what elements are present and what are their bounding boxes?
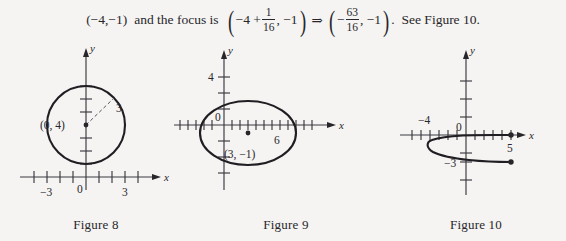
figure-9-plot: y x 4 0 6 (3, −1) xyxy=(186,40,386,210)
result-fraction: 63 16 xyxy=(346,6,360,33)
figure-9-semi-axis-x-label: 6 xyxy=(274,134,280,146)
figure-10-y-tick-label-neg3: −3 xyxy=(444,157,456,169)
textbook-figure-page: (−4,−1) and the focus is ( −4 + 1 16 , −… xyxy=(0,0,566,241)
circle-center-label: (0, 4) xyxy=(40,119,65,132)
figure-8-plot: y x −3 0 3 (0, 4) 3 xyxy=(6,40,186,210)
focus-expression-lead: −4 + xyxy=(236,12,261,28)
figure-10-y-axis-label: y xyxy=(469,44,475,56)
ellipse-center-label: (3, −1) xyxy=(224,148,256,161)
parabola-curve xyxy=(428,135,511,162)
y-axis-arrowhead xyxy=(221,50,227,59)
result-fraction-denominator: 16 xyxy=(346,21,360,33)
y-axis-arrowhead xyxy=(463,50,469,59)
circle-center-dot xyxy=(84,123,89,128)
figure-10-x-tick-label-neg4: −4 xyxy=(418,114,430,126)
figure-8-x-tick-label-3: 3 xyxy=(122,186,128,198)
result-tail: , −1 xyxy=(360,12,381,28)
figure-10-plot: y x −4 0 5 −3 xyxy=(386,40,566,210)
x-axis-arrowhead xyxy=(517,132,526,138)
focus-expression-tail: , −1 xyxy=(276,12,297,28)
parabola-endpoint-lower-dot xyxy=(508,159,513,164)
figure-8-y-axis-label: y xyxy=(89,42,95,54)
figure-9-caption: Figure 9 xyxy=(186,217,386,233)
sentence-period: . xyxy=(391,12,394,28)
focus-fraction-numerator: 1 xyxy=(265,6,273,18)
result-sign: − xyxy=(337,12,345,28)
figure-9-origin-label: 0 xyxy=(215,111,221,123)
x-axis-arrowhead xyxy=(327,122,336,128)
focus-fraction-denominator: 16 xyxy=(262,21,276,33)
result-fraction-numerator: 63 xyxy=(346,6,360,18)
equation-lead-point: (−4,−1) xyxy=(86,12,127,28)
figure-8-origin-label: 0 xyxy=(77,183,83,195)
figure-8-caption: Figure 8 xyxy=(6,217,186,233)
equation-line: (−4,−1) and the focus is ( −4 + 1 16 , −… xyxy=(0,0,566,40)
figure-10-caption: Figure 10 xyxy=(386,217,566,233)
figure-9-y-axis-label: y xyxy=(227,44,233,56)
figure-10-x-tick-label-5: 5 xyxy=(507,142,513,154)
focus-fraction: 1 16 xyxy=(262,6,276,33)
figure-8-x-tick-label-neg3: −3 xyxy=(40,186,52,198)
parabola-endpoint-upper-dot xyxy=(508,132,513,137)
figure-8: y x −3 0 3 (0, 4) 3 Figure 8 xyxy=(6,40,186,241)
equation-connector: and the focus is xyxy=(134,12,218,28)
see-figure-reference: See Figure 10. xyxy=(402,12,480,28)
figure-9-x-axis-label: x xyxy=(338,119,344,131)
circle-radius-label: 3 xyxy=(116,102,122,114)
figure-10: y x −4 0 5 −3 Figure 10 xyxy=(386,40,566,241)
y-axis-arrowhead xyxy=(83,48,89,57)
implies-symbol: ⇒ xyxy=(312,12,323,29)
ellipse-center-dot xyxy=(246,131,251,136)
figure-10-x-axis-label: x xyxy=(528,129,534,141)
figure-10-origin-label: 0 xyxy=(456,121,462,133)
figure-9: y x 4 0 6 (3, −1) Figure 9 xyxy=(186,40,386,241)
figure-9-y-tick-label-4: 4 xyxy=(208,71,214,83)
figure-8-x-axis-label: x xyxy=(163,171,169,183)
x-axis-arrowhead xyxy=(152,174,161,180)
